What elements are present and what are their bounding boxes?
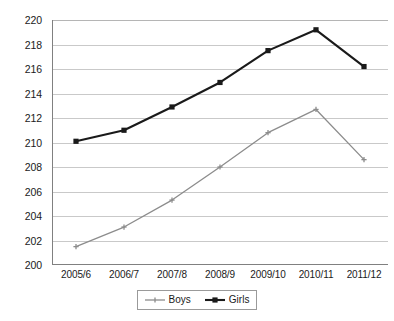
x-axis-tick-label: 2007/8	[157, 269, 187, 280]
data-point-marker	[265, 48, 270, 53]
x-axis-tick-label: 2011/12	[347, 269, 382, 280]
x-axis-tick-label: 2005/6	[61, 269, 91, 280]
data-point-marker	[313, 27, 318, 32]
legend-label: Boys	[169, 295, 191, 305]
chart-legend: BoysGirls	[137, 290, 257, 310]
data-point-marker	[217, 80, 222, 85]
series-line	[76, 30, 364, 141]
x-axis-tick-label: 2006/7	[109, 269, 139, 280]
data-point-marker	[73, 139, 78, 144]
legend-entry-girls[interactable]: Girls	[205, 295, 250, 305]
series-girls	[73, 27, 366, 144]
series-boys	[73, 107, 366, 249]
data-point-marker	[121, 128, 126, 133]
data-point-marker	[169, 104, 174, 109]
legend-square-marker-icon	[205, 295, 225, 305]
data-point-marker	[121, 224, 126, 229]
x-axis-tick-label: 2008/9	[205, 269, 235, 280]
x-axis-tick-labels: 2005/62006/72007/82008/92009/102010/1120…	[52, 269, 388, 285]
x-axis-tick-label: 2010/11	[299, 269, 334, 280]
x-axis-tick-label: 2009/10	[250, 269, 285, 280]
data-point-marker	[361, 64, 366, 69]
data-point-marker	[73, 244, 78, 249]
legend-label: Girls	[229, 295, 250, 305]
series-line	[76, 109, 364, 246]
legend-entry-boys[interactable]: Boys	[145, 295, 191, 305]
legend-plus-marker-icon	[145, 295, 165, 305]
line-chart: 200202204206208210212214216218220 2005/6…	[0, 0, 394, 321]
